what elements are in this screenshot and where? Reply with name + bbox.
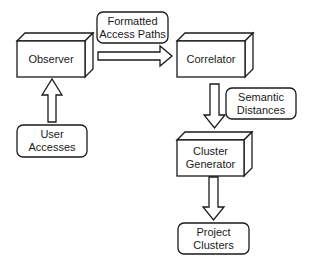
observer-box: Observer bbox=[17, 33, 93, 77]
formatted-access-paths-label-line1: Formatted bbox=[107, 15, 157, 27]
user-accesses-label-line1: User bbox=[40, 128, 64, 140]
correlator-box: Correlator bbox=[177, 33, 253, 77]
project-clusters-label-line2: Clusters bbox=[193, 239, 234, 251]
cluster-generator-label-line1: Cluster bbox=[193, 145, 228, 157]
cluster-generator-label-line2: Generator bbox=[186, 158, 236, 170]
semantic-distances-box: Semantic Distances bbox=[226, 88, 296, 119]
arrow-up-icon bbox=[42, 79, 62, 122]
formatted-access-paths-box: Formatted Access Paths bbox=[97, 12, 168, 43]
formatted-access-paths-label-line2: Access Paths bbox=[99, 28, 166, 40]
user-accesses-label-line2: Accesses bbox=[28, 141, 76, 153]
semantic-distances-label-line1: Semantic bbox=[238, 91, 284, 103]
project-clusters-label-line1: Project bbox=[196, 226, 230, 238]
arrow-down-icon bbox=[203, 177, 224, 220]
observer-label: Observer bbox=[28, 53, 74, 65]
arrow-down-icon bbox=[204, 84, 225, 128]
correlator-label: Correlator bbox=[187, 53, 236, 65]
user-accesses-box: User Accesses bbox=[17, 125, 87, 157]
flow-diagram: Observer Correlator Cluster Generator Us… bbox=[0, 0, 312, 263]
semantic-distances-label-line2: Distances bbox=[237, 104, 286, 116]
project-clusters-box: Project Clusters bbox=[178, 223, 249, 254]
arrow-right-icon bbox=[98, 46, 172, 66]
cluster-generator-box: Cluster Generator bbox=[177, 132, 252, 176]
